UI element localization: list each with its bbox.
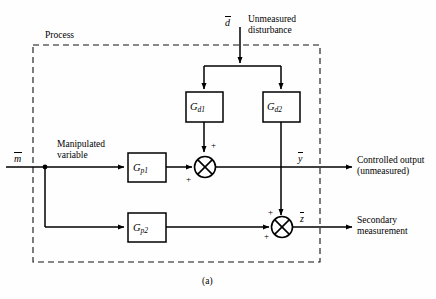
controlled-output-symbol-text: y — [298, 153, 302, 164]
block-gd1-label: Gd1 — [190, 101, 205, 114]
secondary-measurement-symbol: z — [300, 213, 304, 224]
controlled-output-description-line1: Controlled output — [357, 155, 424, 166]
manipulated-description-line1: Manipulated — [57, 139, 105, 150]
controlled-output-symbol: y — [298, 153, 302, 164]
sum-primary-sign-top: + — [211, 140, 216, 150]
figure-caption: (a) — [202, 276, 213, 287]
block-gp1-label: Gp1 — [133, 162, 148, 175]
disturbance-description-line2: disturbance — [248, 25, 292, 36]
disturbance-symbol-text: d — [225, 17, 230, 28]
block-gp1-base: G — [133, 162, 141, 173]
secondary-measurement-description-line1: Secondary — [357, 215, 397, 226]
sum-secondary-sign-left: + — [264, 231, 269, 241]
block-gd1-base: G — [190, 101, 198, 112]
block-gp2-label: Gp2 — [133, 222, 148, 235]
block-gp1-sub: p1 — [141, 166, 149, 175]
controlled-output-description-line2: (unmeasured) — [357, 166, 409, 177]
block-gd2-sub: d2 — [275, 105, 283, 114]
block-gp2-sub: p2 — [141, 226, 149, 235]
block-gd2-label: Gd2 — [267, 101, 282, 114]
manipulated-description-line2: variable — [57, 150, 88, 161]
secondary-measurement-description-line2: measurement — [357, 226, 408, 237]
process-boundary-label: Process — [45, 30, 74, 41]
block-diagram-figure: Process d Unmeasured disturbance Gd1 Gd2… — [0, 0, 436, 299]
sum-primary-sign-left: + — [186, 174, 191, 184]
disturbance-symbol: d — [225, 17, 230, 28]
block-gd2-base: G — [267, 101, 275, 112]
secondary-measurement-symbol-text: z — [300, 213, 304, 224]
manipulated-symbol: m — [14, 153, 21, 164]
block-gd1-sub: d1 — [198, 105, 206, 114]
sum-secondary-sign-top: + — [268, 207, 273, 217]
block-gp2-base: G — [133, 222, 141, 233]
manipulated-symbol-text: m — [14, 153, 21, 164]
disturbance-description-line1: Unmeasured — [248, 14, 296, 25]
